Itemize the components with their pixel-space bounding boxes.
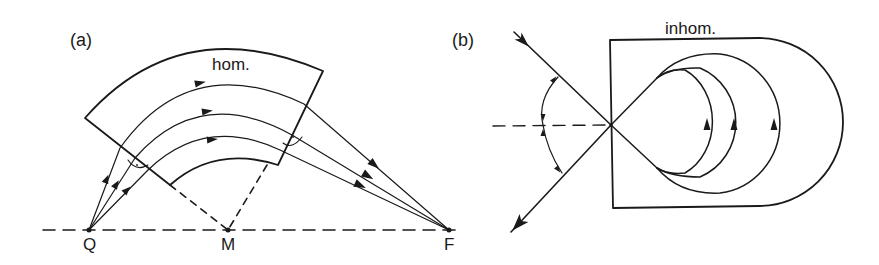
right-angle-dot — [292, 136, 294, 138]
inhom-region-label: inhom. — [665, 19, 716, 38]
ray-loop-middle — [657, 68, 736, 177]
label-m: M — [221, 235, 235, 254]
label-f: F — [444, 235, 454, 254]
panel-a: (a) hom. — [43, 30, 462, 254]
incident-ray — [514, 32, 611, 125]
arrow-up-icon — [704, 118, 711, 130]
radius-line-right — [228, 165, 267, 230]
optics-diagram: (a) hom. — [0, 0, 879, 265]
panel-b-label: (b) — [452, 30, 474, 50]
right-angle-marker-left — [128, 160, 148, 168]
point-f — [447, 228, 452, 233]
point-q — [87, 228, 92, 233]
point-m — [226, 228, 231, 233]
right-angle-marker-right — [283, 137, 302, 145]
optical-axis-b — [493, 125, 608, 126]
crossing-point — [609, 123, 613, 127]
hom-region-label: hom. — [212, 55, 250, 74]
radius-line-left — [170, 185, 228, 230]
ray-loops — [611, 54, 780, 193]
homogeneous-sector — [85, 49, 323, 185]
reflected-ray — [511, 125, 611, 232]
arrow-up-icon — [771, 118, 778, 130]
inhomogeneous-region — [610, 38, 843, 208]
label-q: Q — [83, 235, 96, 254]
arrow-icon — [194, 78, 206, 87]
right-angle-dot — [136, 164, 138, 166]
angle-arrow-icon — [550, 75, 558, 84]
ray-loop-inner — [611, 70, 712, 174]
ray-middle — [89, 114, 449, 230]
panel-b: (b) inhom. — [452, 19, 843, 235]
ray-bundle-a — [89, 85, 449, 230]
ray-loop-arrows — [704, 118, 778, 130]
ray-loop-outer — [657, 54, 780, 193]
arrow-icon — [122, 184, 133, 195]
ray-outer — [89, 85, 449, 230]
panel-a-label: (a) — [70, 30, 92, 50]
angle-arrow-icon — [554, 165, 562, 174]
